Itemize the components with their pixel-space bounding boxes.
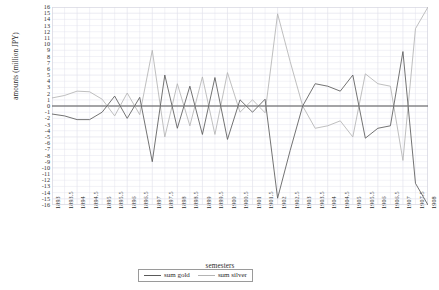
legend-item-sum-gold[interactable]: sum gold [144, 271, 190, 280]
legend-swatch-sum-gold [144, 275, 161, 276]
legend-item-sum-silver[interactable]: sum silver [198, 271, 247, 280]
chart-legend: sum gold sum silver [138, 269, 253, 282]
chart-svg [52, 7, 428, 205]
legend-label-sum-silver: sum silver [218, 271, 247, 280]
plot-area [52, 7, 428, 205]
x-tick-label: 1908 [430, 196, 437, 209]
legend-swatch-sum-silver [198, 275, 215, 276]
chart-figure: amounts (million JPY) 161514131211109876… [0, 0, 439, 290]
legend-label-sum-gold: sum gold [164, 271, 190, 280]
